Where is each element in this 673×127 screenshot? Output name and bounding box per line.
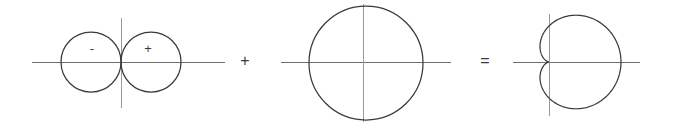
equals-operator-label: = <box>480 52 489 69</box>
term-one-dipole: - + <box>32 18 225 108</box>
polar-decomposition-figure: - + + = <box>0 0 673 127</box>
plus-operator-label: + <box>240 52 249 69</box>
negative-lobe-sign-label: - <box>90 41 94 56</box>
term-two-constant-circle <box>281 4 451 122</box>
positive-lobe-sign-label: + <box>144 41 152 56</box>
constant-radius-circle <box>309 6 423 120</box>
term-three-cardioid <box>513 14 640 116</box>
figure-canvas: - + + = <box>0 0 673 127</box>
